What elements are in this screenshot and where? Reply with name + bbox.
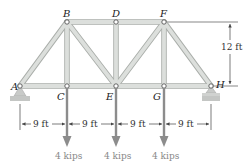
- joint-e: [114, 84, 118, 88]
- label-d: D: [111, 8, 120, 19]
- label-a: A: [10, 81, 18, 92]
- label-b: B: [62, 8, 70, 19]
- height-dimension-label: 12 ft: [221, 42, 243, 52]
- joint-c: [65, 84, 69, 88]
- joint-a: [18, 84, 22, 88]
- label-h: H: [215, 79, 225, 90]
- height-dimension: 12 ft: [221, 24, 243, 84]
- span-gh-label: 9 ft: [178, 119, 194, 129]
- label-f: F: [159, 8, 168, 19]
- label-c: C: [57, 91, 65, 102]
- joint-h: [209, 84, 213, 88]
- joint-d: [114, 20, 118, 24]
- load-label-e: 4 kips: [104, 151, 132, 161]
- span-ac-label: 9 ft: [33, 119, 49, 129]
- joint-g: [162, 84, 166, 88]
- span-ce-label: 9 ft: [82, 119, 98, 129]
- joint-f: [162, 20, 166, 24]
- label-g: G: [153, 91, 161, 102]
- load-label-c: 4 kips: [55, 151, 83, 161]
- load-label-g: 4 kips: [152, 151, 180, 161]
- truss-diagram: A B C D E F G H 12 ft 9 ft 9 ft 9 ft 9 f…: [0, 0, 247, 163]
- label-e: E: [105, 91, 114, 102]
- truss-members: [20, 22, 211, 86]
- span-eg-label: 9 ft: [130, 119, 146, 129]
- joint-b: [65, 20, 69, 24]
